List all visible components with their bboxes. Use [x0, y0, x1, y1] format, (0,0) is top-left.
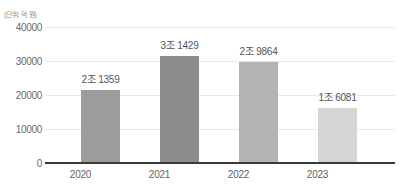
- x-tick-label-2023: 2023: [298, 169, 337, 180]
- y-tick-label-40000: 40000: [0, 22, 42, 33]
- y-tick-label-10000: 10000: [0, 124, 42, 135]
- y-axis: 40000 30000 20000 10000 0: [0, 0, 42, 192]
- y-tick-label-20000: 20000: [0, 90, 42, 101]
- x-tick-label-2022: 2022: [219, 169, 258, 180]
- bar-2023[interactable]: 1조 6081: [318, 108, 357, 163]
- x-tick-label-2021: 2021: [140, 169, 179, 180]
- y-tick-label-30000: 30000: [0, 56, 42, 67]
- bar-value-label-2021: 3조 1429: [160, 37, 198, 52]
- bar-2020[interactable]: 2조 1359: [81, 90, 120, 163]
- bar-group-2020: 2조 1359: [81, 27, 120, 163]
- bar-group-2023: 1조 6081: [318, 27, 357, 163]
- bar-group-2021: 3조 1429: [160, 27, 199, 163]
- bar-value-label-2020: 2조 1359: [81, 71, 119, 86]
- bar-chart: (단위: 억 원) 40000 30000 20000 10000 0 2조 1…: [0, 0, 402, 192]
- bar-value-label-2023: 1조 6081: [318, 89, 356, 104]
- bar-2022[interactable]: 2조 9864: [239, 62, 278, 164]
- x-axis-line: [45, 162, 395, 164]
- bar-2021[interactable]: 3조 1429: [160, 56, 199, 163]
- y-tick-label-0: 0: [0, 158, 42, 169]
- plot-area: 2조 1359 3조 1429 2조 9864 1조 6081: [45, 27, 395, 163]
- x-tick-label-2020: 2020: [61, 169, 100, 180]
- bar-group-2022: 2조 9864: [239, 27, 278, 163]
- bar-value-label-2022: 2조 9864: [239, 43, 277, 58]
